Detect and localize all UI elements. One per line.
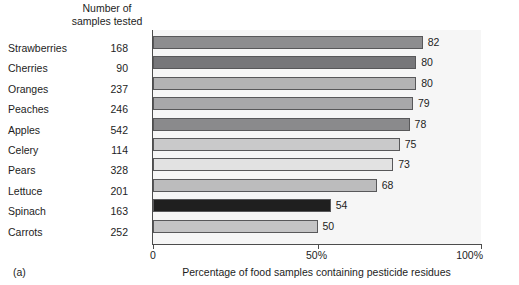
table-row: Peaches246 [0, 103, 146, 116]
x-axis-tick-label: 0 [150, 249, 156, 261]
bar-value-label: 82 [428, 36, 440, 49]
bar-value-label: 68 [382, 179, 394, 192]
category-label: Pears [8, 164, 35, 177]
table-row: Apples542 [0, 124, 146, 137]
bar [153, 118, 410, 131]
x-axis-tick-label: 50% [306, 249, 327, 261]
table-row: Strawberries168 [0, 42, 146, 55]
category-label: Lettuce [8, 185, 42, 198]
table-row: Celery114 [0, 144, 146, 157]
samples-tested-value: 90 [116, 62, 128, 75]
samples-tested-value: 201 [110, 185, 128, 198]
x-axis-title: Percentage of food samples containing pe… [152, 266, 481, 278]
bar [153, 220, 318, 233]
bar [153, 97, 413, 110]
table-row: Spinach163 [0, 205, 146, 218]
samples-tested-value: 542 [110, 124, 128, 137]
x-axis-tick-label: 100% [456, 249, 483, 261]
bar [153, 199, 331, 212]
samples-tested-value: 168 [110, 42, 128, 55]
bar [153, 179, 377, 192]
samples-tested-value: 328 [110, 164, 128, 177]
category-label: Cherries [8, 62, 48, 75]
category-label: Apples [8, 124, 40, 137]
bar-value-label: 75 [405, 138, 417, 151]
category-label: Oranges [8, 83, 48, 96]
bar [153, 77, 416, 90]
bars-container: 82808079787573685450 [153, 30, 481, 244]
category-label: Carrots [8, 226, 42, 239]
category-label: Peaches [8, 103, 49, 116]
samples-tested-value: 114 [111, 144, 128, 157]
samples-tested-column-header: Number of samples tested [68, 2, 146, 27]
bar [153, 56, 416, 69]
bar-value-label: 50 [323, 220, 335, 233]
bar-value-label: 80 [421, 56, 433, 69]
table-row: Carrots252 [0, 226, 146, 239]
category-label-column: Strawberries168Cherries90Oranges237Peach… [0, 36, 146, 241]
category-label: Celery [8, 144, 38, 157]
bar [153, 36, 423, 49]
pesticide-residue-bar-chart-figure: Number of samples tested Strawberries168… [0, 0, 519, 285]
bar-value-label: 80 [421, 77, 433, 90]
samples-tested-value: 246 [110, 103, 128, 116]
bar-value-label: 78 [415, 118, 427, 131]
samples-tested-value: 252 [110, 226, 128, 239]
table-row: Lettuce201 [0, 185, 146, 198]
bar [153, 158, 393, 171]
bar-value-label: 54 [336, 199, 348, 212]
plot-area: 82808079787573685450 [152, 30, 481, 245]
category-label: Spinach [8, 205, 46, 218]
bar-value-label: 79 [418, 97, 430, 110]
category-label: Strawberries [8, 42, 67, 55]
panel-tag: (a) [13, 266, 26, 278]
table-row: Oranges237 [0, 83, 146, 96]
bar-value-label: 73 [398, 158, 410, 171]
samples-tested-value: 237 [110, 83, 128, 96]
bar [153, 138, 400, 151]
table-row: Cherries90 [0, 62, 146, 75]
table-row: Pears328 [0, 164, 146, 177]
samples-tested-value: 163 [110, 205, 128, 218]
